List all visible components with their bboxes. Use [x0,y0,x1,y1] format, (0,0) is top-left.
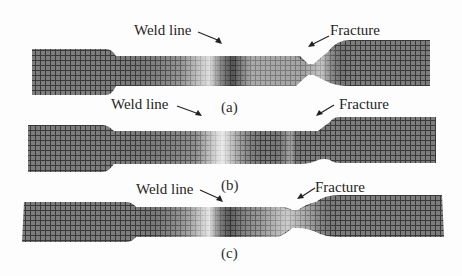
figure: Weld line Fracture (a) Weld line Fractur… [0,0,462,276]
specimen-c [0,0,462,276]
fracture-arrow-c [292,186,322,206]
weld-line-arrow-c [198,187,238,207]
caption-c: (c) [221,245,238,261]
weld-line-label-c: Weld line [136,181,194,197]
fracture-label-c: Fracture [315,179,365,195]
